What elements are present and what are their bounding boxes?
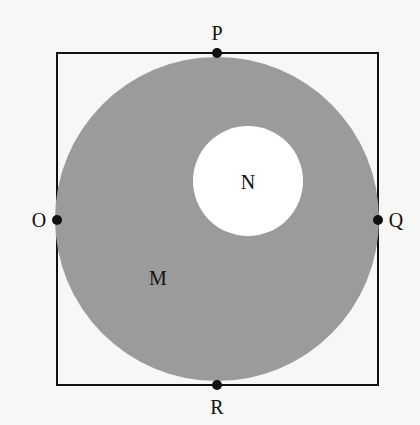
diagram-canvas: PQRO M N [0,0,420,425]
point-o-label: O [32,209,46,231]
point-p-label: P [211,22,222,44]
point-q-label: Q [389,209,404,231]
geometry-diagram: PQRO M N [0,0,420,425]
point-q-dot [373,215,383,225]
point-p-dot [212,48,222,58]
label-m: M [149,267,167,289]
point-r-label: R [210,396,224,418]
point-r-dot [212,380,222,390]
label-n: N [241,171,255,193]
point-o-dot [52,215,62,225]
